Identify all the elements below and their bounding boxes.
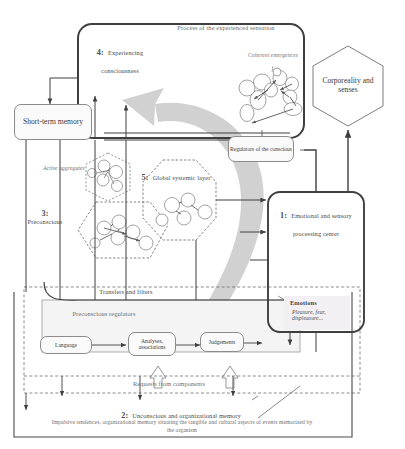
global-systemic-layer-number: 5:	[142, 173, 149, 182]
active-aggregates-label: Active aggregates	[40, 165, 88, 171]
language-node[interactable]: Language	[40, 336, 92, 354]
unconscious-memory-title: Unconscious and organizational memory	[132, 412, 240, 419]
corporeality-and-senses-label: Corporeality and senses	[313, 77, 383, 94]
experiencing-consciousness-label: 4: Experiencing consciousness	[84, 41, 156, 78]
preconscious-label: 3: Preconscious	[14, 209, 76, 226]
emotions-label: Emotions	[290, 299, 346, 306]
global-systemic-layer-text: Global systemic layer	[153, 174, 211, 181]
diagram-canvas: 4: Experiencing consciousness Process of…	[0, 0, 405, 449]
regulators-of-conscious-label: Regulators of the conscious	[230, 146, 292, 152]
short-term-memory-node[interactable]: Short-term memory	[14, 104, 92, 140]
analyses-associations-node[interactable]: Analyses, associations	[128, 332, 176, 356]
global-systemic-layer-nodes	[156, 193, 212, 226]
regulators-of-conscious-node[interactable]: Regulators of the conscious	[228, 136, 294, 162]
experiencing-consciousness-number: 4:	[97, 48, 104, 57]
emotional-center-text: Emotional and sensory processing center	[291, 212, 352, 237]
preconscious-number: 3:	[14, 209, 76, 218]
coherent-emergences-cluster	[239, 68, 302, 122]
process-of-experienced-sensation-label: Process of the experienced sensation	[176, 24, 276, 31]
emotions-detail-label: Pleasure, fear, displeasure...	[292, 309, 348, 322]
transfers-and-filters-label: Transfers and filters	[78, 288, 174, 295]
language-label: Language	[55, 342, 77, 348]
judgements-node[interactable]: Judgements	[200, 332, 244, 352]
coherent-emergences-label: Coherent emergences	[244, 52, 302, 58]
experiencing-consciousness-text: Experiencing consciousness	[101, 49, 143, 74]
corporeality-and-senses-node[interactable]: Corporeality and senses	[313, 66, 383, 106]
analyses-associations-label: Analyses, associations	[129, 338, 175, 351]
preconscious-regulators-label: Preconscious regulators	[44, 310, 164, 317]
preconscious-frame	[78, 202, 168, 258]
global-systemic-layer-label: 5: Global systemic layer	[140, 166, 212, 184]
judgements-label: Judgements	[209, 339, 235, 345]
emotional-center-number: 1:	[280, 211, 287, 220]
requests-from-components-label: Requests from components	[104, 380, 234, 387]
unconscious-memory-subcaption: Impulsive tendences, organizational memo…	[48, 419, 316, 434]
preconscious-text: Preconscious	[14, 218, 76, 225]
emotional-center-label: 1: Emotional and sensory processing cent…	[274, 204, 358, 241]
corporeality-connectors	[304, 130, 348, 192]
short-term-memory-label: Short-term memory	[23, 118, 83, 127]
unconscious-diagonal-arrow	[252, 396, 258, 400]
